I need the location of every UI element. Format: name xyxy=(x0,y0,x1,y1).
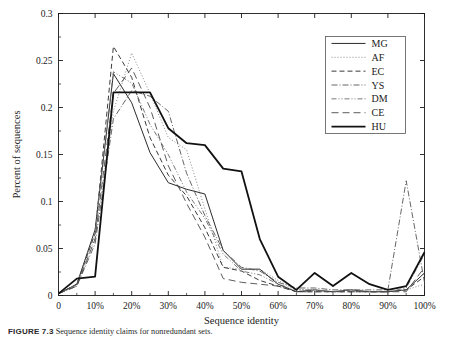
x-tick-label: 20% xyxy=(123,301,141,311)
figure-container: 010%20%30%40%50%60%70%80%90%100% 00.050.… xyxy=(0,0,450,342)
legend-label-ys: YS xyxy=(372,80,385,91)
x-tick-label: 70% xyxy=(306,301,324,311)
figure-caption: FIGURE 7.3 Sequence identity claims for … xyxy=(8,327,448,337)
x-axis-tick-labels: 010%20%30%40%50%60%70%80%90%100% xyxy=(56,301,436,311)
y-tick-label: 0.2 xyxy=(41,103,53,113)
x-tick-label: 80% xyxy=(343,301,361,311)
x-tick-label: 40% xyxy=(196,301,214,311)
y-tick-label: 0.15 xyxy=(36,150,53,160)
legend-label-hu: HU xyxy=(372,121,387,132)
y-tick-label: 0.1 xyxy=(41,197,53,207)
figure-caption-text: Sequence identity claims for nonredundan… xyxy=(56,327,213,336)
legend-label-ce: CE xyxy=(372,107,385,118)
chart-legend: MGAFECYSDMCEHU xyxy=(326,37,406,134)
x-tick-label: 30% xyxy=(160,301,178,311)
figure-caption-label: FIGURE 7.3 xyxy=(8,327,54,336)
x-tick-label: 0 xyxy=(56,301,61,311)
y-tick-label: 0 xyxy=(48,291,53,301)
y-tick-label: 0.25 xyxy=(36,56,53,66)
y-tick-label: 0.3 xyxy=(41,9,53,19)
x-tick-label: 50% xyxy=(233,301,251,311)
x-axis-title: Sequence identity xyxy=(204,315,280,326)
x-tick-label: 90% xyxy=(379,301,397,311)
legend-label-af: AF xyxy=(372,52,385,63)
legend-label-ec: EC xyxy=(372,66,385,77)
legend-label-dm: DM xyxy=(372,93,388,104)
y-axis-tick-labels: 00.050.10.150.20.250.3 xyxy=(36,9,53,301)
y-tick-label: 0.05 xyxy=(36,244,53,254)
y-axis-title: Percent of sequences xyxy=(11,110,22,198)
x-tick-label: 10% xyxy=(86,301,104,311)
x-tick-label: 60% xyxy=(269,301,287,311)
x-tick-label: 100% xyxy=(413,301,435,311)
legend-label-mg: MG xyxy=(372,38,388,49)
line-chart: 010%20%30%40%50%60%70%80%90%100% 00.050.… xyxy=(0,0,450,342)
